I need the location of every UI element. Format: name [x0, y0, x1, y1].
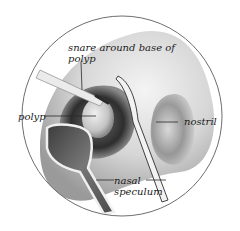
illustration-figure: snare around base of polyp polyp nostril…	[0, 0, 240, 231]
label-snare: snare around base of polyp	[68, 42, 178, 64]
label-nasal-speculum: nasal speculum	[114, 175, 174, 197]
label-nostril: nostril	[184, 116, 217, 127]
nostril-shape	[151, 94, 195, 165]
label-polyp: polyp	[18, 111, 46, 122]
